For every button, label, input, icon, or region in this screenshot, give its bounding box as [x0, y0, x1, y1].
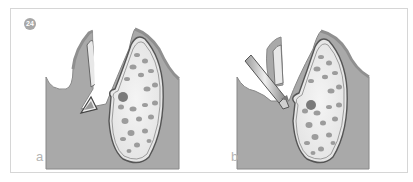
figure-frame: 24: [10, 8, 408, 173]
socket-illustration-b: [209, 9, 407, 172]
panel-b: b: [209, 9, 407, 172]
panel-label-b: b: [231, 149, 238, 164]
panel-label-a: a: [36, 149, 43, 164]
socket-illustration-a: [11, 9, 211, 172]
panel-a: a: [11, 9, 211, 172]
